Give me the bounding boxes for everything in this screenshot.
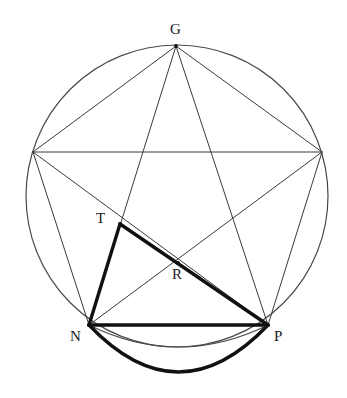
thin-lower-arc-n-p <box>89 325 268 347</box>
point-label-n: N <box>70 329 81 344</box>
vertex-dot-r <box>176 261 180 265</box>
vertex-dot-layer <box>87 44 270 327</box>
pentagram-figure <box>0 0 347 398</box>
arc-layer <box>89 325 268 347</box>
diagram-canvas: GTRNP <box>0 0 347 398</box>
heavy-edge-t-p <box>120 224 268 325</box>
diagonal-g-p <box>176 46 268 325</box>
point-label-p: P <box>274 329 282 344</box>
point-label-g: G <box>170 22 181 37</box>
pentagon-side-n-l <box>33 152 89 325</box>
vertex-dot-n <box>87 323 91 327</box>
circumscribed-circle <box>26 45 328 347</box>
point-label-t: T <box>96 211 105 226</box>
vertex-dot-g <box>174 44 178 48</box>
vertex-dot-p <box>266 323 270 327</box>
vertex-dot-t <box>118 222 122 226</box>
point-label-r: R <box>172 267 182 282</box>
circumscribed-circle-layer <box>26 45 328 347</box>
pentagon-side-l-g <box>33 46 176 152</box>
thin-line-layer <box>33 46 322 325</box>
pentagon-side-g-e <box>176 46 322 152</box>
thick-line-layer <box>89 224 268 372</box>
pentagon-side-e-p <box>268 152 322 325</box>
heavy-edge-t-n <box>89 224 120 325</box>
